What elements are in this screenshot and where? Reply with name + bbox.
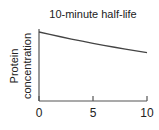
x-axis-ticks: 0510 xyxy=(36,96,154,120)
chart-title: 10-minute half-life xyxy=(49,8,136,20)
x-tick-label: 0 xyxy=(36,106,43,120)
decay-curve xyxy=(39,32,147,53)
chart: 10-minute half-life Protein concentratio… xyxy=(0,0,159,130)
x-tick-label: 5 xyxy=(90,106,97,120)
y-axis-label-line-1: Protein xyxy=(8,49,20,84)
y-axis-label-line-2: concentration xyxy=(21,33,33,99)
x-tick-label: 10 xyxy=(140,106,154,120)
y-axis-label: Protein concentration xyxy=(8,33,33,99)
